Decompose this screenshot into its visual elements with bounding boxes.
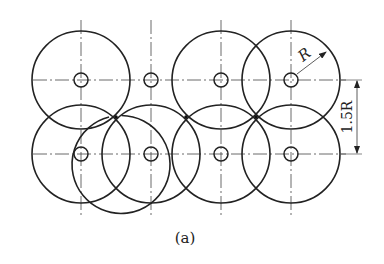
circle-grid-diagram: R 1.5R (a) bbox=[0, 0, 384, 264]
radius-label: R bbox=[294, 44, 315, 66]
intersection-dot-3 bbox=[254, 115, 258, 119]
figure-caption: (a) bbox=[175, 229, 196, 247]
intersection-dot-2 bbox=[184, 115, 188, 119]
radius-dimension: R bbox=[294, 44, 326, 74]
spacing-label: 1.5R bbox=[339, 100, 355, 133]
intersection-dot-1 bbox=[114, 115, 118, 119]
top-row-circles bbox=[32, 31, 340, 213]
spacing-dimension: 1.5R bbox=[339, 80, 362, 154]
circle-r1-c2 bbox=[72, 116, 170, 214]
